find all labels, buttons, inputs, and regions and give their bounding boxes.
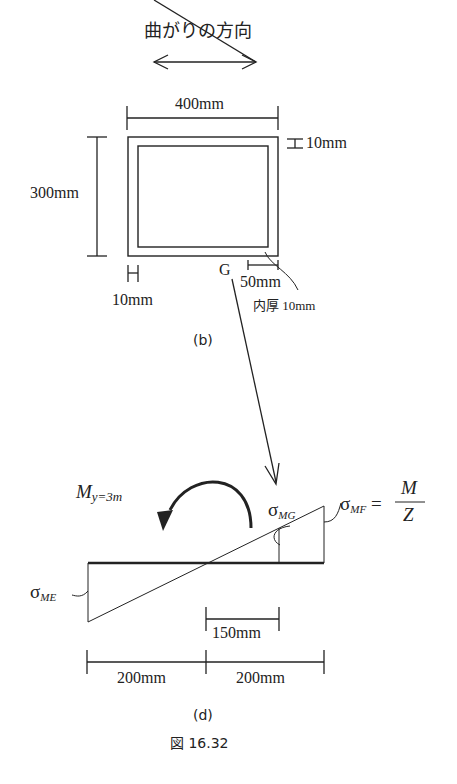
moment-arrowhead <box>157 510 173 531</box>
caption-d: (d) <box>193 708 213 722</box>
sigma-mg-subscript: MG <box>278 509 295 521</box>
left-thickness-label: 10mm <box>112 292 153 308</box>
fraction-denominator: Z <box>403 505 414 524</box>
sigma-me-label: σME <box>30 582 56 603</box>
diagram-lines <box>0 0 457 784</box>
offset-mark <box>248 260 278 270</box>
top-thickness-label: 10mm <box>306 135 347 151</box>
inner-thickness-label: 内厚 10mm <box>253 299 315 312</box>
height-dimension <box>87 137 107 256</box>
moment-symbol: M <box>76 481 92 502</box>
figure-caption: 図 16.32 <box>170 736 229 750</box>
point-g-label: G <box>219 262 231 278</box>
sigma-mg-symbol: σ <box>268 499 278 520</box>
sigma-mf-symbol: σ <box>340 493 350 514</box>
sigma-me-subscript: ME <box>40 591 56 603</box>
height-label: 300mm <box>30 185 79 201</box>
box-section <box>128 137 278 256</box>
offset-label: 50mm <box>240 274 281 290</box>
sigma-mg-label: σMG <box>268 500 295 521</box>
bending-direction-label: 曲がりの方向 <box>144 22 252 40</box>
moment-subscript: y=3m <box>92 489 122 504</box>
moment-arrow <box>170 482 251 528</box>
moment-label: My=3m <box>76 482 122 503</box>
dim-150-label: 150mm <box>212 625 261 641</box>
stress-distribution <box>72 503 341 622</box>
caption-b: (b) <box>193 333 213 347</box>
dim-left-label: 200mm <box>117 670 166 686</box>
dim-right-label: 200mm <box>236 670 285 686</box>
left-thickness-mark <box>128 265 138 282</box>
sigma-me-symbol: σ <box>30 581 40 602</box>
width-label: 400mm <box>175 96 224 112</box>
top-thickness-mark <box>287 139 303 148</box>
sigma-mf-subscript: MF <box>350 503 366 515</box>
fraction-numerator: M <box>401 478 417 497</box>
sigma-mf-label: σMF = <box>340 494 382 515</box>
equals-sign: = <box>371 493 382 514</box>
